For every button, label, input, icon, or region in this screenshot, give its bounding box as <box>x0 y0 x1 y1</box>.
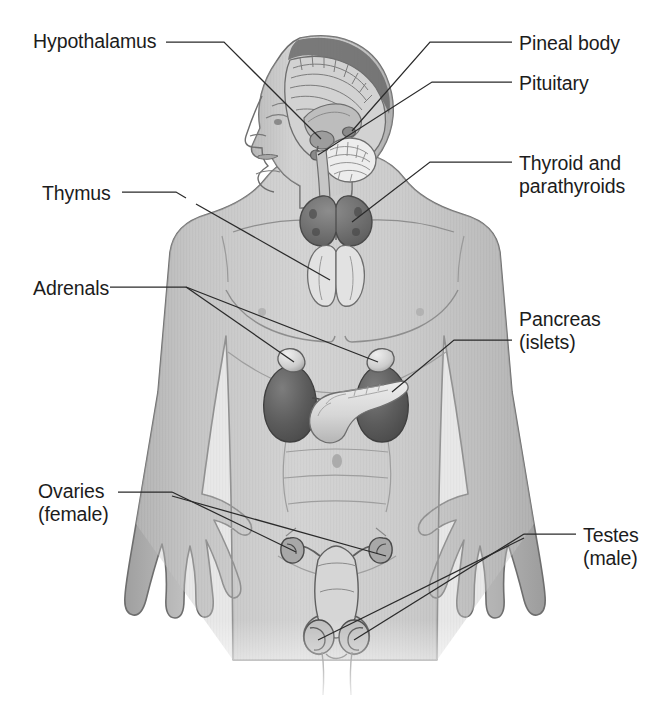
label-adrenals: Adrenals <box>33 277 109 300</box>
label-pituitary: Pituitary <box>519 72 589 95</box>
label-ovaries-female: Ovaries (female) <box>38 480 109 526</box>
label-pineal-body: Pineal body <box>519 32 620 55</box>
label-pancreas-islets: Pancreas (islets) <box>519 308 601 354</box>
cerebellum <box>324 138 376 182</box>
ovary-left <box>369 538 392 563</box>
label-hypothalamus: Hypothalamus <box>33 30 156 53</box>
body-figure <box>125 36 545 707</box>
label-thyroid-parathyroids: Thyroid and parathyroids <box>519 152 625 198</box>
label-testes-male: Testes (male) <box>583 524 639 570</box>
label-thymus: Thymus <box>42 182 111 205</box>
leader-thymus <box>122 192 186 198</box>
endocrine-diagram: Hypothalamus Pineal body Pituitary Thyro… <box>0 0 671 707</box>
